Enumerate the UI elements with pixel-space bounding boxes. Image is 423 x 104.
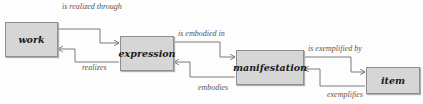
entity-expression: expression (120, 36, 174, 71)
entity-manifestation: manifestation (236, 50, 304, 85)
label-is-embodied-in: is embodied in (178, 29, 225, 38)
label-is-realized-through: is realized through (62, 2, 122, 11)
entity-item: item (366, 67, 420, 94)
frbr-diagram: work expression manifestation item is re… (0, 0, 423, 104)
label-is-exemplified-by: is exemplified by (308, 44, 362, 53)
label-realizes: realizes (82, 63, 107, 72)
label-exemplifies: exemplifies (327, 90, 363, 99)
label-embodies: embodies (198, 83, 228, 92)
entity-work: work (5, 22, 58, 57)
